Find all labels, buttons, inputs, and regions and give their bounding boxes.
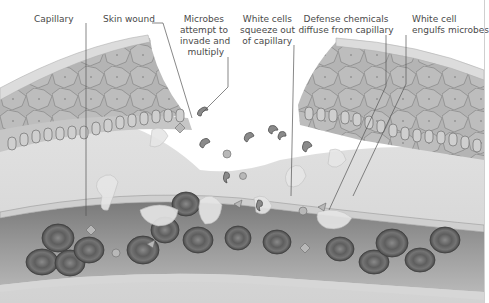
label-capillary: Capillary xyxy=(34,14,74,25)
epidermis-right xyxy=(298,38,484,160)
label-white-cell-engulfs: White cell engulfs microbes xyxy=(412,14,489,36)
diagram-stage: Capillary Skin wound Microbes attempt to… xyxy=(0,0,489,303)
label-white-cells-squeeze: White cells squeeze out of capillary xyxy=(240,14,292,47)
label-skin-wound: Skin wound xyxy=(103,14,155,25)
label-defense-chemicals: Defense chemicals diffuse from capillary xyxy=(296,14,396,36)
page-edge-divider xyxy=(484,0,485,303)
label-microbes: Microbes attempt to invade and multiply xyxy=(180,14,224,58)
